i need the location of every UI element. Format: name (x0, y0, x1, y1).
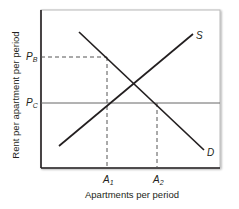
pc-label: PC (26, 97, 39, 109)
demand-label: D (207, 147, 214, 158)
y-axis-title: Rent per apartment per period (10, 31, 21, 158)
a1-label: A1 (102, 174, 114, 186)
plot-frame (41, 10, 220, 168)
chart-canvas: S D PB PC A1 A2 Apartments per period Re… (0, 0, 239, 209)
a2-label: A2 (152, 174, 164, 186)
x-axis-title: Apartments per period (85, 189, 179, 200)
pb-label: PB (26, 51, 38, 63)
supply-label: S (196, 30, 203, 41)
